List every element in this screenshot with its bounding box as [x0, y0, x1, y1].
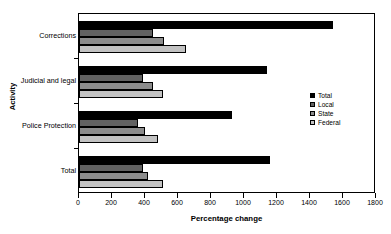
bar-judicial-and-legal-state — [79, 82, 153, 90]
legend-label: Local — [318, 100, 334, 109]
bar-total-federal — [79, 180, 163, 188]
legend-item-total: Total — [310, 91, 340, 100]
bar-total-total — [79, 156, 270, 164]
legend-label: Total — [318, 91, 332, 100]
x-axis-tick — [243, 193, 244, 198]
bar-group — [79, 21, 374, 53]
legend-item-local: Local — [310, 100, 340, 109]
bar-corrections-local — [79, 29, 153, 37]
y-axis-label-total: Total — [0, 167, 76, 175]
bar-corrections-state — [79, 37, 164, 45]
bar-total-local — [79, 164, 143, 172]
legend-label: Federal — [318, 118, 340, 127]
x-axis-tick — [210, 193, 211, 198]
y-axis-label-corrections: Corrections — [0, 32, 76, 40]
legend-swatch-icon — [310, 120, 315, 125]
legend-item-state: State — [310, 109, 340, 118]
bar-corrections-total — [79, 21, 333, 29]
bar-total-state — [79, 172, 148, 180]
x-axis-tick — [375, 193, 376, 198]
y-axis-title: Activity — [8, 67, 17, 127]
y-axis-label-police-protection: Police Protection — [0, 122, 76, 130]
bar-police-protection-state — [79, 127, 145, 135]
legend-swatch-icon — [310, 111, 315, 116]
x-axis-tick — [276, 193, 277, 198]
bar-police-protection-total — [79, 111, 232, 119]
x-axis-tick — [342, 193, 343, 198]
legend: TotalLocalStateFederal — [310, 91, 340, 127]
bar-police-protection-federal — [79, 135, 158, 143]
bar-judicial-and-legal-local — [79, 74, 143, 82]
x-axis-tick — [309, 193, 310, 198]
bar-judicial-and-legal-total — [79, 66, 267, 74]
y-axis-label-judicial-and-legal: Judicial and legal — [0, 77, 76, 85]
x-axis-title: Percentage change — [78, 214, 375, 223]
bar-police-protection-local — [79, 119, 138, 127]
x-axis-tick — [177, 193, 178, 198]
bar-corrections-federal — [79, 45, 186, 53]
bar-group — [79, 156, 374, 188]
x-axis-tick — [144, 193, 145, 198]
legend-item-federal: Federal — [310, 118, 340, 127]
x-axis-tick — [111, 193, 112, 198]
chart-figure: Activity CorrectionsJudicial and legalPo… — [0, 0, 391, 234]
legend-swatch-icon — [310, 93, 315, 98]
x-axis-tick — [78, 193, 79, 198]
bar-judicial-and-legal-federal — [79, 90, 163, 98]
x-axis-tick-label: 1800 — [355, 199, 391, 207]
legend-swatch-icon — [310, 102, 315, 107]
legend-label: State — [318, 109, 333, 118]
